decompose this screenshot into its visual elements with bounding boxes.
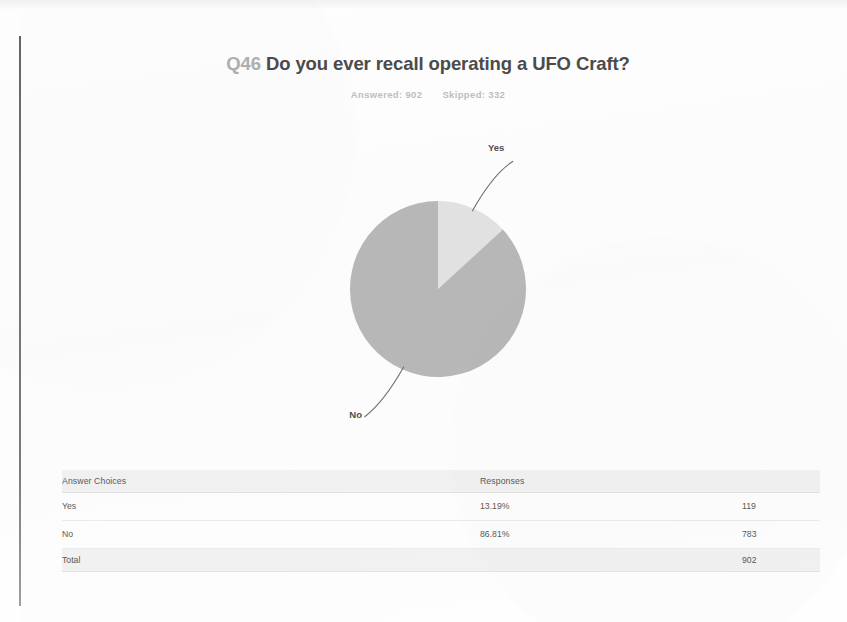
cell-response-percent: 13.19% [480, 492, 742, 520]
skipped-count: 332 [488, 89, 505, 100]
column-header-answer-choices: Answer Choices [62, 470, 480, 492]
pie-chart: Yes No [250, 136, 630, 446]
cell-response-count: 119 [742, 492, 820, 520]
table-total-row: Total 902 [62, 548, 820, 571]
cell-response-count: 783 [742, 520, 820, 548]
total-spacer [480, 548, 742, 571]
page-title: Q46 Do you ever recall operating a UFO C… [128, 52, 728, 75]
table-row[interactable]: Yes 13.19% 119 [62, 492, 820, 520]
leader-line-no [365, 367, 404, 417]
answered-count: 902 [405, 89, 422, 100]
skipped-label: Skipped: [442, 89, 485, 100]
pie-chart-svg: Yes No [250, 136, 630, 446]
pie-label-no: No [349, 409, 362, 420]
scan-binding-line [19, 36, 21, 606]
question-text: Do you ever recall operating a UFO Craft… [266, 53, 630, 74]
question-number: Q46 [226, 53, 261, 74]
pie-label-yes: Yes [488, 142, 504, 153]
scan-top-band [0, 0, 847, 9]
chart-header: Q46 Do you ever recall operating a UFO C… [128, 52, 728, 100]
answer-choices-table: Answer Choices Responses Yes 13.19% 119 … [62, 470, 820, 572]
column-header-responses: Responses [480, 470, 742, 492]
cell-response-percent: 86.81% [480, 520, 742, 548]
answered-label: Answered: [351, 89, 403, 100]
pie-slices [350, 201, 526, 377]
column-header-count [742, 470, 820, 492]
table-header-row: Answer Choices Responses [62, 470, 820, 492]
cell-answer-choice: No [62, 520, 480, 548]
total-count: 902 [742, 548, 820, 571]
leader-line-yes [472, 161, 513, 211]
response-stats: Answered: 902 Skipped: 332 [128, 89, 728, 100]
table-row[interactable]: No 86.81% 783 [62, 520, 820, 548]
total-label: Total [62, 548, 480, 571]
cell-answer-choice: Yes [62, 492, 480, 520]
